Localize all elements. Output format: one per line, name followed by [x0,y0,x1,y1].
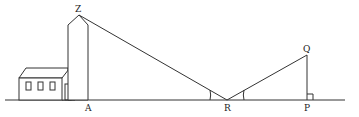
right-angle-marker [307,94,313,100]
label-R: R [224,103,231,113]
angle-arc-left [210,90,211,100]
line-ZR [79,15,227,100]
angle-arc-right [243,90,244,100]
building-roof [19,68,68,78]
line-RQ [227,55,307,100]
label-Q: Q [303,44,310,54]
label-Z: Z [75,4,81,14]
building [19,68,75,100]
label-A: A [84,103,92,113]
tower [68,15,88,100]
label-P: P [304,103,310,113]
geometry-diagram: Z A R P Q [0,0,359,117]
